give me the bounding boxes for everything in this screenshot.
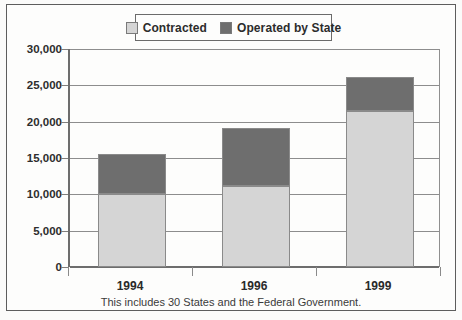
y-axis-tick-mark: [61, 85, 68, 86]
y-axis-tick-label: 20,000: [6, 116, 62, 128]
y-axis-tick-mark: [61, 194, 68, 195]
x-axis-tick-mark: [192, 267, 193, 276]
x-axis-label-1996: 1996: [241, 279, 268, 293]
bar-segment: [222, 128, 290, 185]
y-axis-tick-mark: [61, 231, 68, 232]
bar-segment: [346, 77, 414, 112]
plot-wrapper: 05,00010,00015,00020,00025,00030,000 199…: [7, 5, 457, 312]
y-axis-tick-mark: [61, 49, 68, 50]
plot-area: [68, 49, 440, 267]
y-axis-tick-label: 25,000: [6, 79, 62, 91]
x-axis-label-1999: 1999: [365, 279, 392, 293]
y-axis-tick-label: 15,000: [6, 152, 62, 164]
bar-segment: [98, 154, 166, 194]
figure-frame: Contracted Operated by State 05,00010,00…: [6, 4, 456, 311]
bar-segment: [222, 186, 290, 267]
bars-layer: [70, 49, 439, 267]
y-axis-tick-mark: [61, 158, 68, 159]
y-axis-tick-mark: [61, 122, 68, 123]
y-axis-tick-label: 0: [6, 261, 62, 273]
y-axis-tick-label: 5,000: [6, 225, 62, 237]
bar-group-1999: [346, 49, 414, 267]
bar-segment: [98, 194, 166, 267]
chart-footnote: This includes 30 States and the Federal …: [7, 296, 455, 308]
x-axis-end-tick: [440, 267, 441, 276]
chart-screenshot: Contracted Operated by State 05,00010,00…: [0, 0, 462, 320]
x-axis-start-tick: [68, 267, 69, 276]
x-axis-label-1994: 1994: [117, 279, 144, 293]
bar-group-1994: [98, 49, 166, 267]
bar-segment: [346, 111, 414, 267]
x-axis-tick-mark: [316, 267, 317, 276]
y-axis-tick-label: 10,000: [6, 188, 62, 200]
y-axis-tick-label: 30,000: [6, 43, 62, 55]
y-axis-tick-mark: [61, 267, 68, 268]
bar-group-1996: [222, 49, 290, 267]
